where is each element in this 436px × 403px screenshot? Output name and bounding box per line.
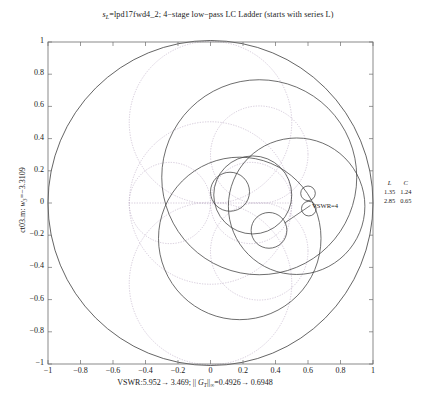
y-tick-label: −0.4 [4,261,44,270]
smith-grid-circle [129,162,210,243]
figure-canvas: sL=lpd17fwd4_2; 4−stage low−pass LC Ladd… [0,0,436,403]
smith-grid-circle [129,41,292,204]
vswr-annotation: VSWR=4 [312,202,339,209]
legend-row: 2.850.65 [382,197,414,206]
x-axis-label-part1: VSWR:5.952 [117,378,160,387]
trajectory-circles [159,80,365,320]
legend-row: 1.351.24 [382,188,414,197]
legend-table: L C 1.351.242.850.65 [382,179,414,205]
x-tick-label: 1 [353,366,393,375]
smith-grid-circle [129,202,292,365]
x-axis-label-part3: =0.4926 [214,378,241,387]
y-tick-label: −0.8 [4,326,44,335]
legend-cell-C: 0.65 [398,197,414,206]
y-tick-label: 0.8 [4,68,44,77]
smith-grid [129,41,308,365]
y-tick-label: −0.6 [4,294,44,303]
vswr-pointer-line [284,205,310,223]
x-axis-label-part4: 0.6948 [249,378,273,387]
trajectory-circle [228,138,365,275]
y-tick-label: 0 [4,197,44,206]
x-axis-label-part2: 3.469; || [169,378,198,387]
x-axis-label-arrow2: → [241,378,249,387]
y-tick-label: 0.6 [4,100,44,109]
legend-header-row: L C [382,179,414,188]
y-tick-label: 1 [4,36,44,45]
legend-cell-L: 1.35 [382,188,398,197]
x-axis-label-arrow1: → [161,378,169,387]
lc-legend-table: L C 1.351.242.850.65 [382,179,414,205]
x-axis-label: VSWR:5.952→ 3.469; || GT||∞=0.4926→ 0.69… [0,378,390,388]
trajectory-circle [301,186,316,201]
y-tick-label: −0.2 [4,229,44,238]
y-tick-label: 0.2 [4,165,44,174]
legend-body: 1.351.242.850.65 [382,188,414,205]
legend-header-C: C [398,179,414,188]
y-tick-label: 0.4 [4,133,44,142]
plot-area: VSWR=4 [0,0,436,403]
y-tick-label: −1 [4,358,44,367]
legend-header-L: L [382,179,398,188]
legend-cell-L: 2.85 [382,197,398,206]
smith-grid-circle [211,106,309,204]
legend-cell-C: 1.24 [398,188,414,197]
